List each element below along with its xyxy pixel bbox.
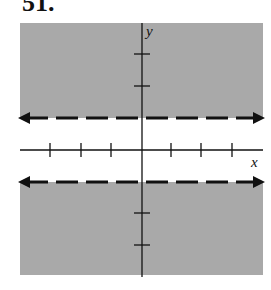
x-axis-label: x: [250, 154, 258, 170]
y-axis-label: y: [144, 23, 153, 39]
inequality-graph: y x: [0, 0, 271, 290]
